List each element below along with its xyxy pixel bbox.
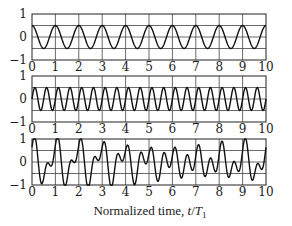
x-tick-label: 6 [169, 60, 177, 74]
x-tick-label: 3 [98, 60, 106, 74]
y-tick-label: 0 [19, 30, 27, 44]
y-tick-label: 1 [19, 132, 27, 146]
x-tick-label: 5 [145, 60, 153, 74]
x-tick-label: 9 [239, 185, 247, 199]
x-tick-label: 7 [192, 60, 200, 74]
x-tick-label: 10 [258, 122, 273, 136]
x-tick-label: 5 [145, 122, 153, 136]
x-tick-label: 4 [122, 60, 130, 74]
y-tick-label: 1 [19, 7, 27, 21]
x-tick-label: 8 [215, 60, 223, 74]
x-tick-label: 2 [75, 60, 83, 74]
y-tick-label: 0 [19, 92, 27, 106]
y-tick-label: 1 [19, 69, 27, 83]
y-tick-label: −1 [9, 115, 27, 129]
x-tick-label: 1 [52, 60, 60, 74]
panel-2: 01234567891010−1 [9, 69, 273, 136]
y-tick-label: −1 [9, 53, 27, 67]
x-tick-label: 3 [98, 185, 106, 199]
x-tick-label: 4 [122, 185, 130, 199]
x-tick-label: 10 [258, 185, 273, 199]
x-tick-label: 0 [28, 60, 36, 74]
x-tick-label: 9 [239, 60, 247, 74]
x-tick-label: 2 [75, 185, 83, 199]
x-tick-label: 1 [52, 122, 60, 136]
chart-figure: 01234567891010−101234567891010−101234567… [0, 0, 292, 226]
x-tick-label: 3 [98, 122, 106, 136]
x-tick-label: 10 [258, 60, 273, 74]
x-tick-label: 8 [215, 122, 223, 136]
x-tick-label: 0 [28, 122, 36, 136]
y-tick-label: 0 [19, 155, 27, 169]
panel-1: 01234567891010−1 [9, 7, 273, 74]
x-axis-label: Normalized time, t/T1 [93, 203, 206, 220]
x-tick-label: 9 [239, 122, 247, 136]
x-tick-label: 0 [28, 185, 36, 199]
x-tick-label: 7 [192, 122, 200, 136]
x-tick-label: 7 [192, 185, 200, 199]
x-tick-label: 5 [145, 185, 153, 199]
panel-3: 01234567891010−1 [9, 132, 273, 199]
x-tick-label: 1 [52, 185, 60, 199]
y-tick-label: −1 [9, 178, 27, 192]
x-tick-label: 8 [215, 185, 223, 199]
x-tick-label: 6 [169, 185, 177, 199]
x-tick-label: 4 [122, 122, 130, 136]
x-tick-label: 2 [75, 122, 83, 136]
x-tick-label: 6 [169, 122, 177, 136]
